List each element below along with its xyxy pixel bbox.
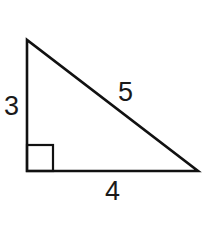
horizontal-leg-label: 4 — [105, 176, 120, 206]
right-triangle-diagram: 3 5 4 — [0, 0, 210, 239]
hypotenuse-label: 5 — [118, 77, 133, 107]
vertical-leg-label: 3 — [4, 91, 19, 121]
right-angle-marker — [27, 145, 53, 171]
